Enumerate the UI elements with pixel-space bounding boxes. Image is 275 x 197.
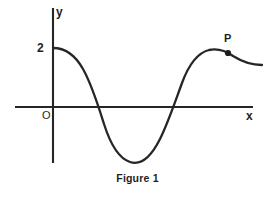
- point-p-marker: [225, 50, 231, 56]
- point-p-label: P: [224, 33, 231, 44]
- figure-caption: Figure 1: [0, 172, 275, 184]
- graph-plot-area: [0, 0, 275, 197]
- y-axis-label: y: [56, 6, 63, 18]
- function-curve: [53, 48, 262, 163]
- y-tick-label-2: 2: [37, 42, 44, 54]
- figure-container: y x 2 O P Figure 1: [0, 0, 275, 197]
- origin-label: O: [42, 110, 51, 121]
- x-axis-label: x: [246, 110, 253, 122]
